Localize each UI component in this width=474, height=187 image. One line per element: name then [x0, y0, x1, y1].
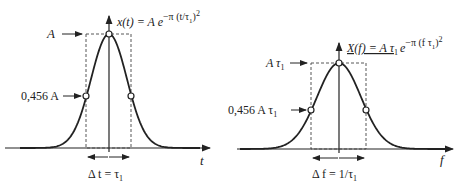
peak-point	[106, 31, 112, 37]
diagram-canvas: A 0,456 A t Δ t = τ1 x(t) = A e−π (t/τ1)…	[0, 0, 474, 187]
half-point-left	[308, 107, 314, 113]
half-point-right	[363, 107, 369, 113]
time-formula: x(t) = A e−π (t/τ1)2	[116, 9, 200, 29]
t-axis-label: t	[200, 153, 204, 168]
half-point-left	[83, 93, 89, 99]
gaussian-pulse-diagram: A 0,456 A t Δ t = τ1 x(t) = A e−π (t/τ1)…	[0, 0, 474, 187]
half-label: 0,456 A τ1	[228, 103, 277, 119]
f-axis-label: f	[440, 152, 446, 167]
peak-point	[336, 60, 342, 66]
half-point-right	[128, 93, 134, 99]
width-label: Δ f = 1/τ1	[312, 167, 357, 183]
peak-label: A	[46, 26, 55, 41]
frequency-formula: X(f) = A τ1e−π (f τ1)2	[346, 35, 443, 57]
time-domain-graph: A 0,456 A t Δ t = τ1 x(t) = A e−π (t/τ1)…	[5, 9, 210, 183]
peak-label: A τ1	[265, 56, 284, 72]
frequency-domain-graph: A τ1 0,456 A τ1 f Δ f = 1/τ1 X(f) = A τ1…	[228, 35, 453, 183]
half-label: 0,456 A	[21, 89, 59, 103]
width-label: Δ t = τ1	[88, 167, 123, 183]
